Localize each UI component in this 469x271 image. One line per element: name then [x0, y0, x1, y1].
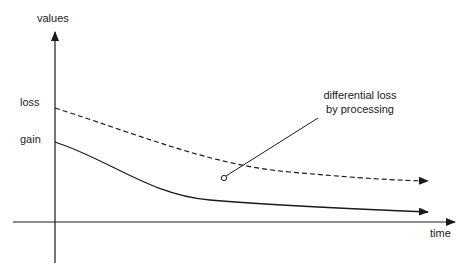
x-axis-label: time	[430, 227, 451, 240]
loss-curve	[55, 108, 428, 181]
loss-label: loss	[20, 96, 40, 109]
callout-point-icon	[221, 175, 226, 180]
annotation-line-2: by processing	[300, 102, 420, 116]
y-axis-label: values	[37, 12, 69, 25]
callout-leader	[226, 118, 318, 176]
gain-label: gain	[20, 133, 41, 146]
diagram-canvas	[0, 0, 469, 271]
annotation-text: differential loss by processing	[300, 88, 420, 116]
gain-curve	[55, 142, 428, 212]
annotation-line-1: differential loss	[300, 88, 420, 102]
